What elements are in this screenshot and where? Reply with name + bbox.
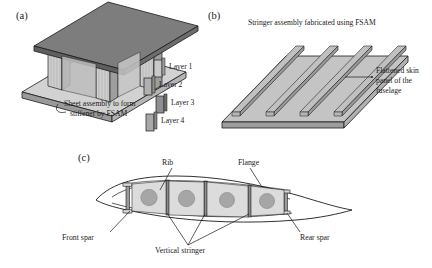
rib-bay-4: [251, 186, 284, 216]
rib-bay-1: [132, 181, 166, 214]
rib-bay-2: [169, 181, 204, 216]
panel-c-label-rib: Rib: [162, 158, 173, 167]
rib-bay-3: [207, 182, 248, 217]
panel-c-label-flange: Flange: [238, 158, 259, 167]
vertical-stringer-1: [166, 180, 169, 215]
panel-c-drawing: [0, 0, 432, 268]
panel-c-label-front-spar: Front spar: [62, 233, 94, 242]
leader-front-spar: [110, 211, 130, 232]
vertical-stringer-2: [204, 181, 207, 216]
vertical-stringer-3: [248, 185, 251, 217]
figure-root: (a): [0, 0, 432, 268]
panel-c-label-vertical-stringer: Vertical stringer: [155, 246, 205, 255]
panel-c-label-rear-spar: Rear spar: [300, 233, 330, 242]
